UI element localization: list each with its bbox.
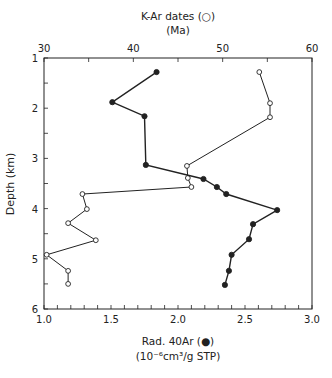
argon-point (224, 191, 229, 196)
bottom-axis-title: Rad. 40Ar (●) (142, 335, 214, 347)
depth-tick-label: 6 (32, 304, 38, 315)
bottom-tick-label: 3.0 (304, 314, 320, 325)
argon-point (201, 176, 206, 181)
argon-point (110, 100, 115, 105)
depth-axis-title: Depth (km) (4, 153, 17, 216)
depth-tick-label: 5 (32, 254, 38, 265)
depth-tick-label: 2 (32, 103, 38, 114)
kar-date-point (66, 221, 71, 226)
kar-date-point (80, 192, 85, 197)
bottom-axis-unit: (10⁻⁶cm³/g STP) (136, 350, 220, 362)
argon-point (222, 282, 227, 287)
bottom-tick-label: 1.0 (36, 314, 52, 325)
kar-date-point (66, 268, 71, 273)
kar-date-point (93, 238, 98, 243)
depth-profile-chart: K-Ar dates (○) (Ma) 30405060 1.01.52.02.… (0, 0, 332, 378)
depth-axis-ticks: 123456 (32, 53, 48, 315)
depth-tick-label: 4 (32, 204, 38, 215)
argon-point (143, 162, 148, 167)
top-axis-ticks: 30405060 (38, 43, 319, 62)
argon-point (226, 268, 231, 273)
kar-date-point (66, 282, 71, 287)
bottom-tick-label: 2.5 (237, 314, 253, 325)
depth-tick-label: 3 (32, 153, 38, 164)
top-tick-label: 60 (306, 43, 319, 54)
bottom-tick-label: 1.5 (103, 314, 119, 325)
argon-point (246, 237, 251, 242)
bottom-axis-ticks: 1.01.52.02.53.0 (36, 305, 320, 325)
kar-date-point (257, 70, 262, 75)
kar-date-point (44, 252, 49, 257)
top-tick-label: 30 (38, 43, 51, 54)
top-axis-title: K-Ar dates (○) (141, 10, 215, 22)
top-axis-unit: (Ma) (166, 24, 190, 36)
argon-point (154, 69, 159, 74)
kar-date-point (185, 164, 190, 169)
kar-date-point (268, 101, 273, 106)
plot-frame (44, 58, 312, 309)
kar-date-point (84, 207, 89, 212)
kar-date-point (268, 115, 273, 120)
argon-point (142, 114, 147, 119)
argon-line (112, 72, 277, 285)
argon-point (229, 252, 234, 257)
kar-dates-line (47, 72, 270, 284)
argon-point (250, 222, 255, 227)
top-tick-label: 50 (216, 43, 229, 54)
bottom-tick-label: 2.0 (170, 314, 186, 325)
argon-point (214, 184, 219, 189)
top-tick-label: 40 (127, 43, 140, 54)
data-series (44, 69, 279, 287)
argon-point (275, 208, 280, 213)
kar-date-point (189, 185, 194, 190)
depth-tick-label: 1 (32, 53, 38, 64)
